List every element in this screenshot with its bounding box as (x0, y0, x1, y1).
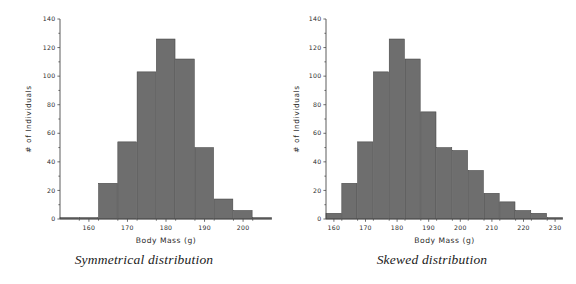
y-tick-label: 120 (43, 44, 56, 51)
y-tick-label: 120 (309, 44, 322, 51)
y-tick-label: 40 (313, 158, 321, 165)
x-tick-label: 190 (422, 224, 435, 231)
histogram-bar (137, 72, 156, 219)
histogram-bar (389, 39, 404, 219)
histogram-bar (516, 210, 531, 219)
y-axis-title: # of Individuals (292, 85, 301, 152)
histogram-bar (373, 72, 388, 219)
caption-skewed: Skewed distribution (288, 252, 576, 268)
x-tick-label: 180 (391, 224, 404, 231)
y-tick-label: 140 (309, 15, 322, 22)
histogram-bar (531, 213, 546, 219)
histogram-bar (156, 39, 175, 219)
x-tick-label: 190 (198, 224, 211, 231)
histogram-bar (326, 213, 341, 219)
histogram-figure: 020406080100120140160170180190200Body Ma… (0, 0, 576, 284)
x-tick-label: 200 (237, 224, 250, 231)
y-tick-label: 20 (47, 187, 55, 194)
y-tick-label: 140 (43, 15, 56, 22)
histogram-bar (437, 148, 452, 219)
histogram-bar (195, 148, 214, 219)
y-tick-label: 60 (47, 129, 55, 136)
x-tick-label: 160 (328, 224, 341, 231)
y-tick-label: 20 (313, 187, 321, 194)
caption-symmetrical: Symmetrical distribution (0, 252, 288, 268)
chart-skewed: 0204060801001201401601701801902002102202… (288, 0, 576, 250)
y-axis-title: # of Individuals (24, 85, 33, 152)
histogram-bar (176, 59, 195, 219)
x-tick-label: 200 (454, 224, 467, 231)
x-tick-label: 230 (549, 224, 562, 231)
histogram-bar (484, 193, 499, 219)
histogram-bar (358, 142, 373, 219)
y-tick-label: 100 (43, 72, 56, 79)
chart-symmetrical: 020406080100120140160170180190200Body Ma… (0, 0, 288, 250)
y-tick-label: 60 (313, 129, 321, 136)
y-tick-label: 0 (51, 215, 55, 222)
histogram-bar (405, 59, 420, 219)
histogram-bar (233, 210, 252, 219)
x-tick-label: 210 (486, 224, 499, 231)
x-tick-label: 160 (83, 224, 96, 231)
histogram-bar (452, 150, 467, 219)
x-axis-title: Body Mass (g) (136, 236, 196, 245)
y-tick-label: 100 (309, 72, 322, 79)
x-tick-label: 170 (359, 224, 372, 231)
panel-symmetrical: 020406080100120140160170180190200Body Ma… (0, 0, 288, 284)
histogram-bar (421, 112, 436, 219)
histogram-bar (99, 183, 118, 219)
x-tick-label: 220 (517, 224, 530, 231)
x-tick-label: 170 (121, 224, 134, 231)
histogram-bar (214, 199, 233, 219)
y-tick-label: 0 (317, 215, 321, 222)
panel-skewed: 0204060801001201401601701801902002102202… (288, 0, 576, 284)
histogram-bar (118, 142, 137, 219)
y-tick-label: 80 (47, 101, 55, 108)
histogram-bar (500, 202, 515, 219)
x-tick-label: 180 (160, 224, 173, 231)
y-tick-label: 80 (313, 101, 321, 108)
histogram-bar (342, 183, 357, 219)
y-tick-label: 40 (47, 158, 55, 165)
histogram-bar (468, 170, 483, 219)
x-axis-title: Body Mass (g) (414, 236, 474, 245)
